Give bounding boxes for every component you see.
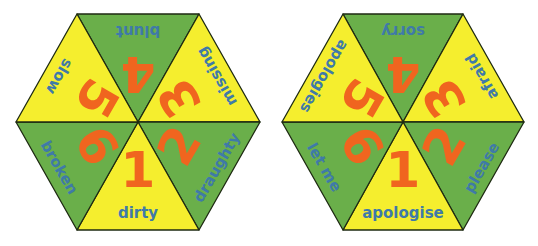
segment-word: dirty [118,204,158,222]
spinner-board: 1 dirty 2 draughty 3 missing 4 blunt 5 s… [0,0,538,246]
segment-word: sorry [381,22,425,40]
right-hexagon: 1 apologise 2 please 3 afraid 4 sorry 5 … [282,14,524,230]
segment-word: blunt [116,22,160,40]
segment-word: apologise [362,204,444,222]
left-hexagon: 1 dirty 2 draughty 3 missing 4 blunt 5 s… [16,14,260,230]
